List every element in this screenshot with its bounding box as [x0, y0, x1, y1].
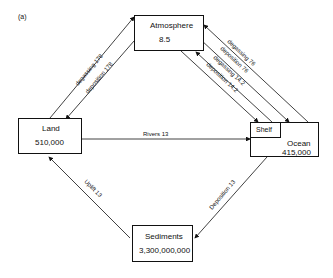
panel-label: (a) [18, 13, 27, 20]
land-name: Land [42, 124, 60, 133]
shelf-name: Shelf [256, 126, 272, 133]
atmosphere-value: 8.5 [159, 35, 170, 44]
ocean-box: Shelf Ocean 415,000 [250, 122, 319, 157]
sediments-box: Sediments 3,300,000,000 [132, 225, 193, 262]
flux-uplift: Uplift 13 [83, 178, 103, 198]
atmosphere-name: Atmosphere [150, 21, 193, 30]
land-value: 510,000 [35, 138, 64, 147]
sediments-name: Sediments [145, 232, 183, 241]
ocean-name: Ocean [287, 139, 311, 148]
shelf-box: Shelf [250, 122, 281, 138]
flux-rivers: Rivers 13 [143, 131, 169, 137]
flux-sed-deposition: Deposition 13 [208, 178, 237, 210]
land-box: Land 510,000 [18, 118, 82, 154]
sediments-value: 3,300,000,000 [139, 246, 190, 255]
ocean-value: 415,000 [282, 148, 311, 157]
atmosphere-box: Atmosphere 8.5 [134, 15, 204, 51]
